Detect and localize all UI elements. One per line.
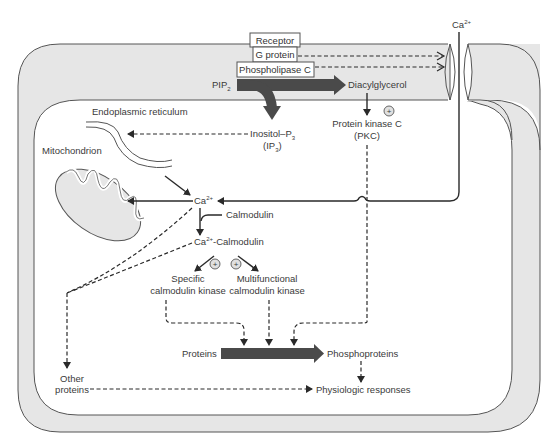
- pkc-activation-icon: +: [384, 106, 394, 116]
- calmodulin-label: Calmodulin: [226, 209, 274, 220]
- g-protein-box: G protein: [253, 47, 297, 62]
- specific-kinase-label: Specific: [171, 273, 205, 284]
- extracellular-calcium-label: Ca2+: [452, 19, 471, 30]
- receptor-box: Receptor: [250, 33, 300, 47]
- multifunctional-kinase-activation-icon: +: [231, 259, 241, 269]
- svg-text:G protein: G protein: [255, 49, 294, 60]
- cell-membrane: [18, 44, 540, 432]
- svg-text:+: +: [387, 107, 392, 116]
- other-proteins-label-2: proteins: [55, 384, 89, 395]
- specific-kinase-activation-icon: +: [210, 259, 220, 269]
- phosphoproteins-label: Phosphoproteins: [327, 348, 399, 359]
- svg-text:+: +: [234, 260, 239, 269]
- specific-kinase-label-2: calmodulin kinase: [150, 285, 226, 296]
- physiologic-responses-label: Physiologic responses: [316, 384, 411, 395]
- diacylglycerol-label: Diacylglycerol: [348, 79, 407, 90]
- multifunctional-kinase-label-2: calmodulin kinase: [229, 285, 305, 296]
- svg-text:Receptor: Receptor: [256, 35, 295, 46]
- signaling-pathway-diagram: Ca2+ Receptor G protein Phospholipase C …: [0, 0, 552, 446]
- other-proteins-label: Other: [60, 373, 84, 384]
- pkc-label: Protein kinase C: [332, 118, 402, 129]
- multifunctional-kinase-label: Multifunctional: [237, 273, 298, 284]
- svg-text:Phospholipase C: Phospholipase C: [239, 64, 311, 75]
- ca-calmodulin-label: Ca2+-Calmodulin: [194, 236, 264, 247]
- pkc-abbrev-label: (PKC): [354, 130, 380, 141]
- proteins-label: Proteins: [182, 348, 217, 359]
- endoplasmic-reticulum-label: Endoplasmic reticulum: [92, 106, 188, 117]
- mitochondrion-label: Mitochondrion: [42, 145, 102, 156]
- svg-text:+: +: [213, 260, 218, 269]
- phospholipase-c-box: Phospholipase C: [237, 62, 314, 77]
